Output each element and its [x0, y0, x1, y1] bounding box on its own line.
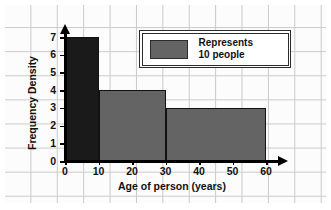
y-axis-tick-label: 0 [42, 156, 56, 167]
y-axis-arrow-icon [60, 24, 70, 34]
y-axis-tick-label: 2 [42, 120, 56, 131]
y-axis-tick [60, 161, 64, 163]
legend-color-swatch [150, 40, 188, 59]
y-axis-tick [60, 143, 64, 145]
y-axis-tick-label: 4 [42, 85, 56, 96]
histogram-figure: 0102030405060 01234567 Age of person (ye… [0, 0, 331, 210]
x-axis-tick-label: 20 [120, 165, 144, 177]
x-axis-tick-label: 60 [254, 165, 278, 177]
y-axis-tick-label: 5 [42, 67, 56, 78]
y-axis-tick [60, 108, 64, 110]
x-axis-tick-label: 0 [53, 165, 77, 177]
histogram-bar [99, 90, 166, 161]
x-axis-line [64, 160, 280, 163]
y-axis-tick [60, 90, 64, 92]
y-axis-line [64, 32, 67, 162]
y-axis-tick-label: 7 [42, 32, 56, 43]
legend-inner-frame: Represents 10 people [142, 33, 289, 66]
y-axis-tick [60, 55, 64, 57]
histogram-bar [166, 108, 267, 161]
x-axis-tick-label: 40 [187, 165, 211, 177]
x-axis-tick-label: 50 [221, 165, 245, 177]
x-axis-tick-label: 30 [154, 165, 178, 177]
y-axis-tick-label: 3 [42, 102, 56, 113]
y-axis-tick [60, 126, 64, 128]
y-axis-tick [60, 37, 64, 39]
legend-box: Represents 10 people [139, 30, 291, 68]
x-axis-label: Age of person (years) [64, 180, 280, 192]
y-axis-tick-label: 1 [42, 138, 56, 149]
x-axis-tick-label: 10 [87, 165, 111, 177]
histogram-bar [65, 37, 99, 161]
y-axis-tick [60, 72, 64, 74]
x-axis-arrow-icon [278, 156, 288, 166]
y-axis-tick-label: 6 [42, 49, 56, 60]
legend-label: Represents 10 people [199, 37, 253, 61]
y-axis-label: Frequency Density [26, 43, 38, 163]
